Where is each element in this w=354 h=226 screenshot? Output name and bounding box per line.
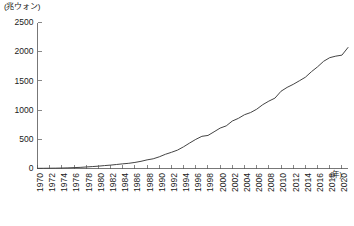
line-chart-plot: 05001000150020002500 1970197219741976197… (0, 0, 354, 226)
y-tick-label: 2500 (15, 17, 34, 27)
x-tick-label: 1978 (84, 173, 94, 192)
x-tick-label: 1976 (71, 173, 81, 192)
y-tick-label: 500 (19, 134, 33, 144)
x-tick-label: 2004 (242, 173, 252, 192)
x-tick-label: 2002 (230, 173, 240, 192)
x-tick-label: 1974 (59, 173, 69, 192)
x-tick-label: 1994 (181, 173, 191, 192)
x-tick-labels-group: 1970197219741976197819801982198419861988… (35, 173, 349, 192)
y-tick-labels-group: 05001000150020002500 (15, 17, 34, 173)
x-tick-label: 1982 (108, 173, 118, 192)
x-tick-label: 2020 (339, 173, 349, 192)
x-tick-label: 1980 (96, 173, 106, 192)
x-tick-label: 2006 (254, 173, 264, 192)
x-tick-label: 1996 (193, 173, 203, 192)
x-tick-label: 2016 (315, 173, 325, 192)
chart-container: (兆ウォン) (年) 05001000150020002500 19701972… (0, 0, 354, 226)
x-tick-label: 2018 (327, 173, 337, 192)
y-tick-label: 2000 (15, 46, 34, 56)
x-tick-label: 1970 (35, 173, 45, 192)
x-tick-label: 1984 (120, 173, 130, 192)
x-tick-label: 1972 (47, 173, 57, 192)
y-tick-label: 0 (29, 163, 34, 173)
y-tick-label: 1000 (15, 105, 34, 115)
y-tick-label: 1500 (15, 76, 34, 86)
data-series-line (38, 48, 349, 169)
x-tick-label: 2000 (218, 173, 228, 192)
x-tick-marks-group (38, 165, 342, 169)
x-tick-label: 2014 (303, 173, 313, 192)
x-tick-label: 1986 (132, 173, 142, 192)
x-tick-label: 2008 (266, 173, 276, 192)
x-tick-label: 1988 (145, 173, 155, 192)
x-tick-label: 1990 (157, 173, 167, 192)
x-tick-label: 2010 (278, 173, 288, 192)
x-tick-label: 2012 (291, 173, 301, 192)
y-tick-marks-group (38, 23, 42, 169)
x-tick-label: 1998 (205, 173, 215, 192)
x-tick-label: 1992 (169, 173, 179, 192)
